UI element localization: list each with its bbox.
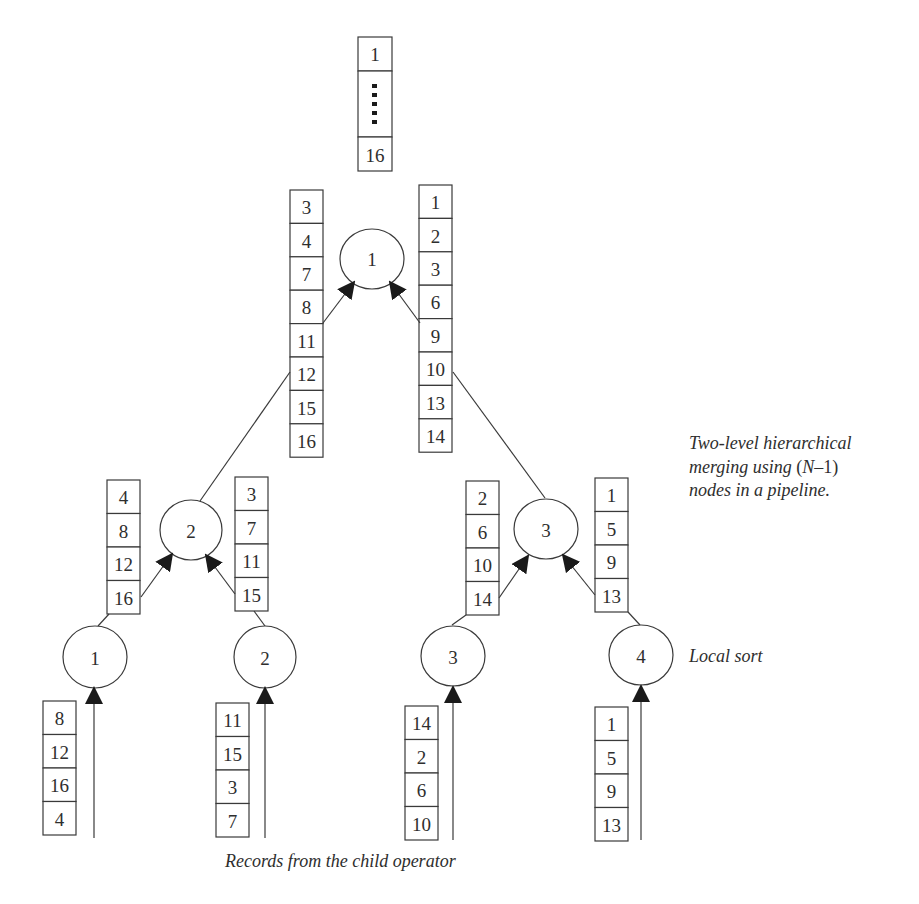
records-column-1: 812164 xyxy=(43,701,76,835)
records-column-4: 15913 xyxy=(595,707,628,841)
edge-node3-to-right-column xyxy=(453,372,545,498)
record-value: 16 xyxy=(114,588,133,609)
record-value: 6 xyxy=(478,522,488,543)
record-value: 2 xyxy=(417,747,427,768)
record-value: 16 xyxy=(297,431,316,452)
record-value: 12 xyxy=(50,742,69,763)
merge-node-top: 1 xyxy=(340,229,404,289)
local-sort-node-2: 2 xyxy=(234,626,296,688)
record-value: 4 xyxy=(119,487,129,508)
record-value: 13 xyxy=(426,393,445,414)
record-value: 8 xyxy=(55,708,65,729)
record-value: 6 xyxy=(417,780,427,801)
record-value: 13 xyxy=(602,815,621,836)
record-value: 7 xyxy=(228,811,238,832)
record-value: 1 xyxy=(607,485,617,506)
record-value: 9 xyxy=(607,552,617,573)
local-sort-node-4-label: 4 xyxy=(636,646,646,667)
record-value: 16 xyxy=(50,775,69,796)
records-column-2: 111537 xyxy=(216,703,249,837)
local-sort-node-4: 4 xyxy=(609,625,673,685)
arrow-into-top-left xyxy=(323,282,354,323)
record-value: 2 xyxy=(478,488,488,509)
record-value: 6 xyxy=(431,292,441,313)
output-cell-text: 16 xyxy=(366,145,385,166)
local-sort-node-1-label: 1 xyxy=(90,648,100,669)
caption-line-2-text: merging using xyxy=(689,457,796,477)
record-value: 5 xyxy=(607,748,617,769)
record-value: 4 xyxy=(302,231,312,252)
record-value: 12 xyxy=(297,364,316,385)
output-column: 1 16 xyxy=(358,37,392,171)
caption-line-2: merging using (N–1) xyxy=(689,456,851,480)
record-value: 15 xyxy=(223,744,242,765)
caption-line-1: Two-level hierarchical xyxy=(689,432,851,456)
record-value: 14 xyxy=(412,713,432,734)
merge-node-top-label: 1 xyxy=(367,249,377,270)
caption-line-3: nodes in a pipeline. xyxy=(689,479,851,503)
edge-sort1-to-column xyxy=(98,614,109,626)
record-value: 10 xyxy=(426,359,445,380)
merge-node-2: 2 xyxy=(160,500,222,560)
record-value: 10 xyxy=(473,555,492,576)
node3-left-input-column: 261014 xyxy=(466,481,499,615)
edge-sort3-to-column xyxy=(452,615,466,625)
record-value: 8 xyxy=(119,521,129,542)
diagram-caption: Two-level hierarchical merging using (N–… xyxy=(689,432,851,503)
record-value: 9 xyxy=(431,326,441,347)
local-sort-node-3-label: 3 xyxy=(448,647,458,668)
record-value: 2 xyxy=(431,226,441,247)
arrow-into-top-right xyxy=(390,282,420,323)
record-value: 12 xyxy=(114,554,133,575)
record-value: 9 xyxy=(607,781,617,802)
record-value: 3 xyxy=(247,484,257,505)
record-value: 7 xyxy=(247,518,257,539)
record-value: 11 xyxy=(242,551,260,572)
record-value: 1 xyxy=(607,714,617,735)
arrow-into-node2-right xyxy=(206,555,235,594)
records-column-3: 142610 xyxy=(405,706,438,840)
record-value: 4 xyxy=(55,809,65,830)
arrow-into-node3-left xyxy=(499,556,528,598)
local-sort-label: Local sort xyxy=(689,645,763,669)
local-sort-node-3: 3 xyxy=(421,626,485,686)
node2-right-input-column: 371115 xyxy=(235,477,268,611)
record-value: 3 xyxy=(302,197,312,218)
merge-node-3-label: 3 xyxy=(541,520,551,541)
level2-left-input-column: 347811121516 xyxy=(290,190,323,457)
record-value: 11 xyxy=(223,710,241,731)
caption-minus-one: –1) xyxy=(814,457,838,477)
record-value: 14 xyxy=(426,426,446,447)
record-value: 15 xyxy=(297,398,316,419)
record-value: 7 xyxy=(302,264,312,285)
record-value: 10 xyxy=(412,814,431,835)
record-value: 3 xyxy=(228,777,238,798)
edge-sort2-to-column xyxy=(254,611,265,626)
merge-node-3: 3 xyxy=(514,499,578,559)
edge-sort4-to-column xyxy=(628,612,640,625)
record-value: 14 xyxy=(473,589,493,610)
record-value: 1 xyxy=(431,192,441,213)
record-value: 8 xyxy=(302,297,312,318)
caption-variable-n: N xyxy=(802,457,814,477)
node2-left-input-column: 481216 xyxy=(107,480,140,614)
level2-right-input-column: 12369101314 xyxy=(419,185,452,452)
record-value: 5 xyxy=(607,519,617,540)
node3-right-input-column: 15913 xyxy=(595,478,628,612)
record-value: 13 xyxy=(602,586,621,607)
record-value: 11 xyxy=(297,331,315,352)
arrow-into-node3-right xyxy=(563,555,595,595)
output-cell-text: 1 xyxy=(370,44,380,65)
records-source-label: Records from the child operator xyxy=(225,850,456,874)
arrow-into-node2-left xyxy=(141,554,172,597)
record-value: 15 xyxy=(242,585,261,606)
local-sort-node-1: 1 xyxy=(63,626,127,688)
record-value: 3 xyxy=(431,259,441,280)
merge-node-2-label: 2 xyxy=(186,521,196,542)
local-sort-node-2-label: 2 xyxy=(260,648,270,669)
